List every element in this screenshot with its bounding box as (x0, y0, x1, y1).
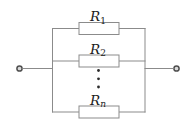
resistor-rn-label: Rn (89, 92, 106, 110)
resistor-r1-box (79, 23, 119, 35)
ellipsis-dot (97, 77, 100, 80)
circuit-diagram: R1 R2 Rn (0, 0, 194, 132)
resistor-rn-box (79, 106, 119, 118)
left-terminal-node-icon (17, 66, 22, 71)
vertical-ellipsis-icon (97, 69, 100, 88)
right-terminal-node-icon (174, 66, 179, 71)
ellipsis-dot (97, 86, 100, 89)
ellipsis-dot (97, 69, 100, 72)
resistor-r1-label: R1 (89, 8, 106, 26)
parallel-resistor-network-svg: R1 R2 Rn (0, 0, 194, 132)
resistor-r2-box (79, 55, 119, 67)
resistor-r2-label: R2 (89, 41, 106, 59)
